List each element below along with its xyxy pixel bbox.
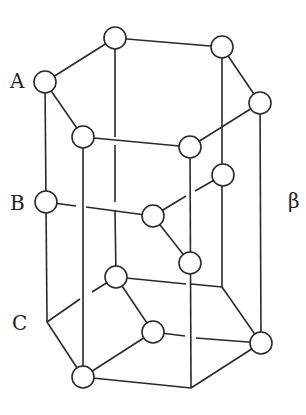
bond-line — [191, 284, 222, 287]
bond-line — [83, 377, 191, 388]
bond-line — [191, 343, 261, 388]
bond-line — [47, 299, 80, 322]
atom-C-front-left — [72, 366, 94, 388]
atom-B-left — [35, 191, 57, 213]
atom-B-inner-front — [179, 252, 201, 274]
phase-label-beta: β — [288, 189, 300, 213]
atoms — [34, 27, 272, 388]
bond-line — [260, 103, 261, 343]
layer-label-a: A — [9, 69, 25, 93]
hcp-crystal-structure-diagram: A B C β — [0, 0, 306, 415]
layer-label-c: C — [12, 311, 27, 335]
atom-A-top-right-back — [211, 36, 233, 58]
bond-line — [115, 38, 222, 47]
atom-A-front-right — [179, 136, 201, 158]
atom-C-inner-mid — [142, 321, 164, 343]
atom-A-front-left — [72, 126, 94, 148]
atom-C-right — [250, 332, 272, 354]
bond-line — [45, 38, 115, 82]
atom-A-top-back — [104, 27, 126, 49]
layer-label-b: B — [10, 191, 25, 215]
atom-B-inner-right — [212, 164, 234, 186]
atom-A-right — [249, 92, 271, 114]
atom-B-center — [142, 205, 164, 227]
bond-line — [83, 332, 153, 377]
atom-C-inner-back — [105, 266, 127, 288]
bond-line — [83, 137, 190, 147]
bond-line — [190, 103, 260, 147]
atom-A-left — [34, 71, 56, 93]
